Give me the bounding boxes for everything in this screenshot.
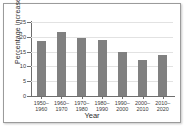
x-axis-tick xyxy=(82,96,83,99)
bar xyxy=(138,60,147,96)
x-axis-tick xyxy=(61,96,62,99)
bar xyxy=(158,55,167,96)
y-axis-tick xyxy=(27,66,31,67)
plot-area: 0510152025 1950–19601960–19701970–198019… xyxy=(31,22,173,96)
bar xyxy=(57,32,66,96)
y-axis-tick xyxy=(27,52,31,53)
gridline xyxy=(31,22,173,23)
bar xyxy=(118,52,127,96)
y-axis-tick xyxy=(27,81,31,82)
x-axis-line xyxy=(31,96,175,97)
y-axis-tick-label: 10 xyxy=(20,63,26,69)
x-axis-tick xyxy=(122,96,123,99)
y-axis-tick-label: 0 xyxy=(23,93,26,99)
y-axis-tick xyxy=(27,22,31,23)
y-axis-tick-label: 25 xyxy=(20,19,26,25)
x-axis-title: Year xyxy=(4,111,180,120)
gridline xyxy=(31,37,173,38)
y-axis-tick xyxy=(27,37,31,38)
x-axis-tick xyxy=(102,96,103,99)
y-axis-tick-label: 5 xyxy=(23,78,26,84)
x-axis-tick xyxy=(163,96,164,99)
bar xyxy=(37,41,46,96)
chart-frame: Percentage increase 0510152025 1950–1960… xyxy=(3,3,181,123)
bar xyxy=(98,40,107,96)
y-axis-tick xyxy=(27,96,31,97)
y-axis-tick-label: 20 xyxy=(20,34,26,40)
x-axis-tick xyxy=(41,96,42,99)
bar xyxy=(77,38,86,96)
y-axis-tick-label: 15 xyxy=(20,49,26,55)
x-axis-tick xyxy=(143,96,144,99)
